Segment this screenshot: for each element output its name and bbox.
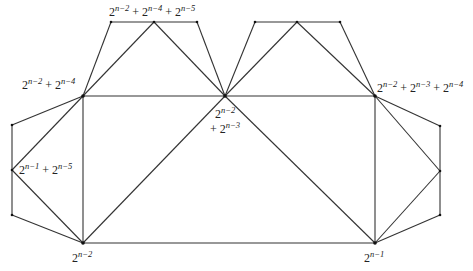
- label-center-vertex-line2: + 2n−3: [210, 120, 240, 136]
- graph-vertex: [110, 21, 113, 24]
- graph-edge: [375, 171, 440, 243]
- graph-edge: [375, 96, 440, 171]
- graph-edge: [297, 22, 375, 96]
- graph-edge: [154, 22, 225, 96]
- label-top-left-hexagon: 2n−2 + 2n−4 + 2n−5: [109, 3, 195, 19]
- graph-edge: [225, 22, 255, 96]
- graph-vertex: [196, 21, 199, 24]
- graph-edge: [340, 22, 375, 96]
- graph-vertex: [439, 125, 442, 128]
- graph-edge: [375, 96, 440, 126]
- graph-edge: [12, 96, 83, 170]
- label-left-upper-vertex: 2n−2 + 2n−4: [22, 76, 76, 92]
- graph-vertex: [439, 214, 442, 217]
- graph-vertex: [296, 21, 299, 24]
- label-bottom-left-vertex: 2n−2: [72, 249, 93, 265]
- graph-vertex: [11, 214, 14, 217]
- graph-edge: [197, 22, 225, 96]
- graph-vertices: [11, 21, 442, 245]
- graph-vertex: [81, 241, 85, 245]
- label-center-vertex-line1: 2n−2: [215, 105, 236, 121]
- graph-vertex: [11, 124, 14, 127]
- graph-edge: [12, 215, 83, 243]
- graph-vertex: [153, 21, 156, 24]
- graph-edge: [83, 96, 225, 243]
- graph-vertex: [373, 241, 377, 245]
- graph-vertex: [81, 94, 85, 98]
- graph-edge: [12, 96, 83, 125]
- graph-vertex: [254, 21, 257, 24]
- graph-edge: [83, 22, 111, 96]
- label-bottom-right-vertex: 2n−1: [364, 249, 384, 265]
- graph-vertex: [439, 170, 442, 173]
- graph-edge: [375, 215, 440, 243]
- graph-vertex: [339, 21, 342, 24]
- graph-vertex: [223, 94, 227, 98]
- graph-diagram: 2n−2 + 2n−4 + 2n−5 2n−2 + 2n−4 2n−1 + 2n…: [0, 0, 473, 271]
- graph-edge: [225, 96, 375, 243]
- graph-edge: [225, 22, 297, 96]
- graph-edge: [83, 22, 154, 96]
- label-left-mid-vertex: 2n−1 + 2n−5: [19, 161, 72, 177]
- label-right-upper-vertex: 2n−2 + 2n−3 + 2n−4: [377, 79, 464, 95]
- graph-edges: [12, 22, 440, 243]
- graph-vertex: [11, 169, 14, 172]
- graph-edge: [12, 170, 83, 243]
